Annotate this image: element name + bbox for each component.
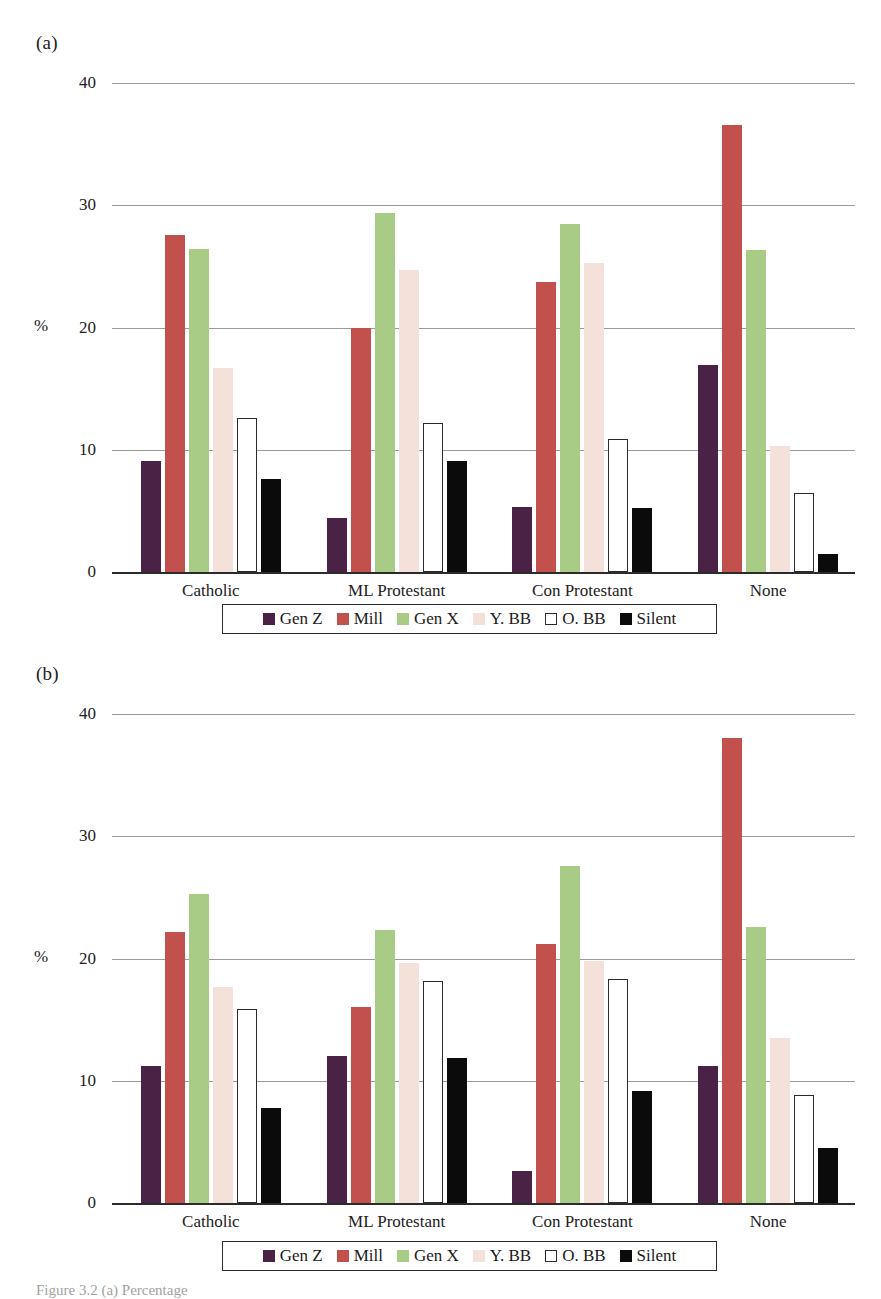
bar[interactable] [423, 981, 443, 1203]
legend-swatch-icon [337, 613, 349, 625]
legend-swatch-icon [263, 613, 275, 625]
bar[interactable] [722, 738, 742, 1203]
legend-swatch-icon [545, 1250, 557, 1262]
y-tick-label: 40 [50, 73, 96, 93]
bar[interactable] [632, 1091, 652, 1203]
bar[interactable] [189, 249, 209, 572]
legend-item[interactable]: Gen X [397, 610, 459, 627]
legend-item[interactable]: Gen Z [263, 610, 323, 627]
legend-item-label: Y. BB [490, 1247, 531, 1264]
bar[interactable] [165, 235, 185, 572]
legend-item[interactable]: Mill [337, 1247, 383, 1264]
bar[interactable] [447, 461, 467, 572]
legend-item-label: O. BB [562, 1247, 605, 1264]
bar[interactable] [447, 1058, 467, 1203]
bar[interactable] [165, 932, 185, 1203]
bar-group [698, 714, 838, 1203]
bar[interactable] [423, 423, 443, 572]
bar[interactable] [770, 446, 790, 572]
bar[interactable] [351, 1007, 371, 1203]
bar[interactable] [632, 508, 652, 572]
legend-item[interactable]: Mill [337, 610, 383, 627]
legend-item[interactable]: Silent [620, 610, 677, 627]
bar[interactable] [261, 1108, 281, 1203]
bar[interactable] [818, 1148, 838, 1203]
legend-item[interactable]: Gen X [397, 1247, 459, 1264]
legend-item-label: Gen Z [280, 1247, 323, 1264]
bar[interactable] [327, 518, 347, 572]
bar[interactable] [584, 961, 604, 1203]
bar[interactable] [584, 263, 604, 572]
bar[interactable] [399, 270, 419, 572]
bar[interactable] [399, 963, 419, 1203]
bar[interactable] [375, 213, 395, 572]
legend-item-label: Silent [637, 1247, 677, 1264]
x-tick-label: Con Protestant [532, 1212, 633, 1232]
legend-swatch-icon [545, 613, 557, 625]
y-tick-label: 20 [50, 318, 96, 338]
legend-item[interactable]: Gen Z [263, 1247, 323, 1264]
bar[interactable] [213, 987, 233, 1203]
bar[interactable] [560, 224, 580, 572]
plot-area-b: %010203040CatholicML ProtestantCon Prote… [0, 645, 881, 1237]
legend-item-label: Gen Z [280, 610, 323, 627]
bar[interactable] [237, 1009, 257, 1203]
bar[interactable] [351, 328, 371, 573]
bar[interactable] [141, 461, 161, 572]
bar[interactable] [746, 250, 766, 572]
legend-swatch-icon [337, 1250, 349, 1262]
bar[interactable] [794, 493, 814, 572]
legend-item[interactable]: Silent [620, 1247, 677, 1264]
y-tick-label: 10 [50, 1071, 96, 1091]
bar[interactable] [512, 1171, 532, 1203]
y-axis-title: % [34, 947, 48, 967]
bar[interactable] [375, 930, 395, 1203]
bar-group [327, 83, 467, 572]
bar-group [141, 714, 281, 1203]
bar[interactable] [770, 1038, 790, 1203]
x-tick-label: None [750, 1212, 787, 1232]
figure-caption: Figure 3.2 (a) Percentage [36, 1282, 188, 1299]
bar[interactable] [536, 282, 556, 572]
bar[interactable] [261, 479, 281, 572]
legend-item[interactable]: Y. BB [473, 610, 531, 627]
legend-item[interactable]: O. BB [545, 610, 605, 627]
bar[interactable] [794, 1095, 814, 1203]
x-tick-label: None [750, 581, 787, 601]
bar[interactable] [213, 368, 233, 572]
legend-item-label: Mill [354, 1247, 383, 1264]
y-tick-label: 30 [50, 195, 96, 215]
bar[interactable] [698, 365, 718, 572]
bar[interactable] [512, 507, 532, 572]
y-tick-label: 10 [50, 440, 96, 460]
y-tick-label: 30 [50, 826, 96, 846]
bar-group [698, 83, 838, 572]
legend-b: Gen ZMillGen XY. BBO. BBSilent [222, 1241, 717, 1271]
bar[interactable] [722, 125, 742, 572]
legend-item-label: Gen X [414, 1247, 459, 1264]
x-axis-line [112, 1203, 855, 1205]
bar[interactable] [746, 927, 766, 1203]
bar[interactable] [560, 866, 580, 1203]
bar[interactable] [536, 944, 556, 1203]
y-tick-label: 0 [50, 1193, 96, 1213]
bar[interactable] [608, 979, 628, 1203]
y-tick-label: 40 [50, 704, 96, 724]
legend-swatch-icon [620, 613, 632, 625]
legend-item-label: Gen X [414, 610, 459, 627]
bar[interactable] [698, 1066, 718, 1203]
chart-panel-a: (a) %010203040CatholicML ProtestantCon P… [0, 0, 881, 645]
bar-group [512, 714, 652, 1203]
legend-swatch-icon [620, 1250, 632, 1262]
bar-group [141, 83, 281, 572]
bar[interactable] [141, 1066, 161, 1203]
bar[interactable] [237, 418, 257, 572]
chart-panel-b: (b) %010203040CatholicML ProtestantCon P… [0, 645, 881, 1297]
bar[interactable] [608, 439, 628, 572]
legend-item[interactable]: O. BB [545, 1247, 605, 1264]
legend-item[interactable]: Y. BB [473, 1247, 531, 1264]
bar[interactable] [327, 1056, 347, 1203]
bar[interactable] [818, 554, 838, 572]
bar[interactable] [189, 894, 209, 1203]
